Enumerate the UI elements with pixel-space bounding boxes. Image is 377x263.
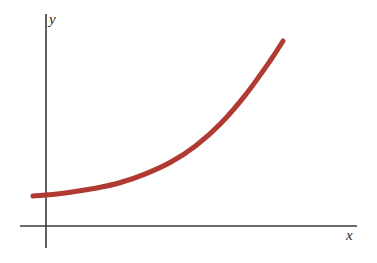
y-axis-label: y <box>49 12 56 27</box>
x-axis-label: x <box>346 228 353 243</box>
figure-canvas: y x <box>0 0 377 263</box>
exponential-curve <box>33 41 283 196</box>
plot-area <box>0 0 377 263</box>
